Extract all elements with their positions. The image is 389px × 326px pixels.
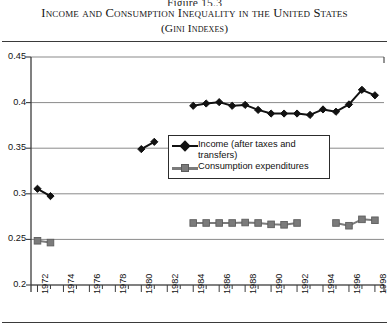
- legend-label-income: Income (after taxes and transfers): [198, 139, 318, 160]
- series-marker-diamond: [319, 106, 326, 113]
- x-axis-tick-label: 1990: [275, 274, 284, 294]
- y-axis-tick-label: 0.3: [0, 189, 26, 198]
- series-marker-square: [346, 222, 353, 229]
- x-axis-tick-label: 1986: [223, 274, 232, 294]
- x-axis-tick-label: 1978: [119, 274, 128, 294]
- series-marker-square: [255, 220, 262, 227]
- y-axis-tick-label: 0.25: [0, 234, 26, 243]
- x-axis-tick-label: 1992: [301, 274, 310, 294]
- legend-marker-square-icon: [172, 162, 198, 174]
- x-axis-tick-label: 1980: [145, 274, 154, 294]
- series-marker-diamond: [203, 100, 210, 107]
- y-axis-tick-label: 0.45: [0, 52, 26, 61]
- series-marker-diamond: [371, 92, 378, 99]
- x-axis-tick-label: 1976: [93, 274, 102, 294]
- x-axis-tick-label: 1994: [327, 274, 336, 294]
- series-marker-square: [333, 220, 340, 227]
- series-marker-square: [229, 220, 236, 227]
- legend-item-consumption: Consumption expenditures: [172, 161, 325, 174]
- series-marker-square: [216, 220, 223, 227]
- chart-legend: Income (after taxes and transfers) Consu…: [168, 135, 330, 179]
- x-axis-tick-label: 1972: [41, 274, 50, 294]
- series-marker-square: [242, 219, 249, 226]
- figure-subtitle: (Gini Indexes): [0, 21, 389, 35]
- series-marker-diamond: [229, 102, 236, 109]
- series-marker-square: [34, 237, 41, 244]
- series-marker-diamond: [190, 102, 197, 109]
- y-axis-tick-label: 0.2: [0, 280, 26, 289]
- series-marker-square: [268, 221, 275, 228]
- series-marker-square: [281, 222, 288, 229]
- x-axis-tick-label: 1984: [197, 274, 206, 294]
- series-marker-diamond: [280, 110, 287, 117]
- series-marker-square: [294, 220, 301, 227]
- series-marker-square: [372, 217, 379, 224]
- legend-marker-diamond-icon: [172, 140, 198, 152]
- x-axis-tick-label: 1982: [171, 274, 180, 294]
- series-line: [336, 219, 375, 225]
- chart-area: 0.20.250.30.350.40.45 197219741976197819…: [0, 46, 389, 326]
- series-marker-square: [47, 239, 54, 246]
- series-marker-square: [203, 220, 210, 227]
- series-marker-square: [359, 216, 366, 223]
- figure-header: Figure 15.3 Income and Consumption Inequ…: [0, 0, 389, 35]
- x-axis-tick-label: 1988: [249, 274, 258, 294]
- x-axis-tick-label: 1998: [379, 274, 388, 294]
- header-divider-rule: [2, 41, 387, 42]
- series-marker-square: [190, 220, 197, 227]
- x-axis-tick-label: 1996: [353, 274, 362, 294]
- x-axis-tick-label: 1974: [67, 274, 76, 294]
- bottom-divider-rule: [2, 322, 387, 323]
- series-marker-diamond: [267, 110, 274, 117]
- series-marker-diamond: [216, 99, 223, 106]
- series-marker-diamond: [306, 111, 313, 118]
- legend-label-consumption: Consumption expenditures: [198, 161, 309, 172]
- y-axis-tick-label: 0.35: [0, 143, 26, 152]
- legend-item-income: Income (after taxes and transfers): [172, 139, 325, 160]
- series-marker-diamond: [255, 106, 262, 113]
- y-axis-tick-label: 0.4: [0, 98, 26, 107]
- series-marker-diamond: [293, 110, 300, 117]
- figure-title: Income and Consumption Inequality in the…: [0, 6, 389, 21]
